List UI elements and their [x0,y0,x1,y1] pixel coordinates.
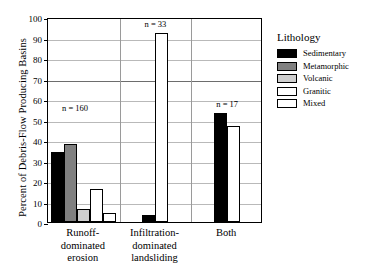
y-axis-title: Percent of Debris-Flow Producing Basins [17,20,28,236]
x-category-label: Both [190,227,262,240]
bar-granitic [155,33,168,222]
y-tick-label: 80 [33,56,42,65]
y-tick-label: 70 [33,76,42,85]
y-tick-label: 10 [33,199,42,208]
bar-group: n = 33 [120,19,192,222]
legend-swatch-metamorphic [277,62,297,71]
legend-swatch-volcanic [277,74,297,83]
x-category-label: Runoff- dominated erosion [47,227,119,265]
legend-item: Granitic [277,87,377,96]
x-category-label: Infiltration- dominated landsliding [119,227,191,265]
legend-swatch-granitic [277,87,297,96]
bar-metamorphic [64,144,77,222]
plot-area: 1009080706050403020100 n = 160n = 33n = … [47,18,262,223]
legend-title: Lithology [277,31,377,43]
y-tick-label: 30 [33,158,42,167]
bar-granitic [90,189,103,222]
y-tick-label: 100 [29,15,43,24]
bar-chart-figure: Percent of Debris-Flow Producing Basins … [0,0,379,276]
y-tick-label: 90 [33,35,42,44]
bar-volcanic [77,209,90,222]
legend-label: Metamorphic [303,62,349,71]
legend-item: Metamorphic [277,62,377,71]
legend-swatch-sedimentary [277,49,297,58]
group-count-label: n = 33 [120,20,192,29]
y-tick-label: 40 [33,138,42,147]
bar-mixed [103,213,116,222]
y-tick-label: 60 [33,97,42,106]
bar-group: n = 160 [48,19,120,222]
bar-granitic [227,126,240,222]
legend-label: Granitic [303,87,331,96]
y-tick-label: 20 [33,179,42,188]
bar-sedimentary [51,152,64,222]
y-tick-label: 0 [38,220,43,229]
legend-swatch-mixed [277,99,297,108]
y-tick [44,224,48,225]
group-count-label: n = 17 [191,100,263,109]
y-tick-label: 50 [33,117,42,126]
bar-sedimentary [142,215,155,222]
legend-label: Volcanic [303,74,333,83]
legend: Lithology SedimentaryMetamorphicVolcanic… [277,31,377,112]
legend-label: Sedimentary [303,49,346,58]
legend-item: Mixed [277,99,377,108]
legend-item: Sedimentary [277,49,377,58]
legend-items: SedimentaryMetamorphicVolcanicGraniticMi… [277,49,377,108]
legend-label: Mixed [303,99,325,108]
bar-group: n = 17 [191,19,263,222]
bar-sedimentary [214,113,227,222]
legend-item: Volcanic [277,74,377,83]
group-count-label: n = 160 [62,104,88,113]
